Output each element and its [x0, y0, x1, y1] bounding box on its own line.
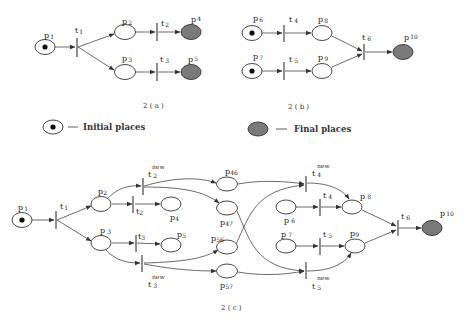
- label-p2: p2: [122, 17, 132, 26]
- arc-t3-p5: [137, 243, 160, 244]
- label-p8: p8: [318, 15, 328, 24]
- transition-t1: t1: [56, 202, 68, 229]
- label-t3-new: t3: [148, 280, 157, 289]
- label-p5: p5: [188, 55, 198, 64]
- token-icon: [249, 30, 254, 35]
- transition-t4: t4: [320, 191, 332, 216]
- label-p57: p57: [220, 281, 233, 290]
- label-t2-new: t2: [148, 170, 157, 179]
- place-p3: p3: [91, 226, 111, 251]
- transition-t5: t5: [284, 55, 298, 80]
- label-t3: t3: [160, 55, 169, 64]
- label-p4: p4: [191, 15, 201, 24]
- arc-t1-p3: [78, 47, 114, 70]
- place-p1: p1: [35, 31, 55, 55]
- label-p1: p1: [44, 31, 54, 40]
- transition-t2-new: new t2: [143, 163, 165, 195]
- label-p2: p2: [98, 187, 107, 196]
- transition-t4: t4: [284, 15, 298, 42]
- label-p47: p47: [220, 218, 233, 227]
- arc-t2new-p47: [144, 187, 219, 203]
- label-p1: p1: [18, 203, 28, 212]
- label-t4: t4: [323, 191, 332, 200]
- place-p2: p2: [115, 17, 136, 40]
- place-p9: p9: [312, 53, 332, 79]
- label-p3: p3: [122, 54, 132, 63]
- legend-initial-place-icon: [43, 120, 63, 134]
- label-p5: p5: [177, 230, 186, 239]
- place-p6: p6: [276, 200, 296, 225]
- label-p6: p6: [253, 14, 263, 23]
- label-t5: t5: [323, 230, 332, 239]
- place-p1: p1: [12, 203, 32, 228]
- arc-p8-t6: [362, 210, 396, 226]
- legend-final-place-icon: [248, 122, 268, 136]
- place-p5: p5: [181, 55, 201, 80]
- label-t2: t2: [161, 19, 169, 28]
- token-icon: [249, 68, 254, 73]
- token-icon: [19, 217, 24, 222]
- place-p5: p5: [161, 230, 186, 252]
- place-p10: p10: [422, 209, 454, 236]
- transition-t1: t1: [75, 26, 83, 57]
- arc-p56-t4new: [236, 185, 304, 244]
- transition-t6: t6: [398, 212, 410, 236]
- legend-initial-label: Initial places: [83, 122, 145, 132]
- arc-p8-t6: [332, 36, 362, 51]
- label-p7: p7: [253, 52, 263, 61]
- token-icon: [42, 44, 47, 49]
- label-t5-new: t5: [312, 282, 321, 291]
- transition-t3: t3: [157, 55, 169, 81]
- place-p8: p8: [312, 15, 332, 41]
- arc-p2-t2new: [108, 186, 141, 198]
- place-p47: p47: [217, 201, 238, 227]
- arc-p46-t4new: [238, 181, 304, 184]
- transition-t2: t2: [157, 19, 169, 41]
- label-t5-new-sup: new: [317, 274, 330, 281]
- arc-t3new-p56: [144, 250, 218, 263]
- arc-p57-t5new: [238, 271, 304, 275]
- place-p4: p4: [181, 15, 201, 40]
- arc-t5new-p9: [307, 253, 351, 271]
- transition-t5-new: new t5: [306, 262, 330, 291]
- petri-net-figure: p1 p2 p3 p4 p5 t1 t2 t3 2: [0, 0, 465, 327]
- caption-c: 2 ( c ): [221, 304, 242, 312]
- label-p9: p9: [318, 53, 328, 62]
- subfigure-b: p6 p7 p8 p9 p10 t4 t5 t6: [242, 14, 418, 111]
- label-p4: p4: [170, 213, 179, 222]
- label-p9: p9: [350, 229, 359, 238]
- label-p8: p8: [360, 192, 371, 201]
- label-t2: t2: [136, 207, 143, 216]
- label-t1: t1: [60, 202, 68, 211]
- label-t6: t6: [401, 212, 410, 221]
- place-p56: p56: [211, 234, 238, 254]
- label-p7: p7: [281, 230, 292, 239]
- label-p6: p6: [284, 216, 295, 225]
- transition-t4-new: new t4: [306, 162, 330, 192]
- place-p2: p2: [91, 187, 111, 212]
- arc-t3new-p57: [144, 264, 216, 271]
- label-p56: p56: [211, 234, 224, 243]
- label-t1: t1: [75, 26, 83, 35]
- place-p6: p6: [242, 14, 263, 41]
- arc-p9-t6: [365, 230, 396, 243]
- label-p3: p3: [100, 226, 111, 235]
- transition-t5: t5: [320, 230, 332, 255]
- transition-t3-new: new t3: [142, 255, 165, 289]
- label-t5: t5: [289, 55, 298, 64]
- place-p4: p4: [161, 197, 181, 222]
- place-p7: p7: [242, 52, 263, 79]
- subfigure-c: p1 p2 p3 p4 p5 p46 p47 p56: [12, 162, 454, 312]
- arc-t1-p3: [57, 220, 91, 241]
- transition-t3: t3: [136, 232, 145, 252]
- label-t4-new: t4: [312, 169, 321, 178]
- transition-t6: t6: [362, 33, 371, 60]
- place-p46: p46: [217, 167, 238, 191]
- arc-p9-t6: [332, 54, 362, 67]
- subfigure-a: p1 p2 p3 p4 p5 t1 t2 t3 2: [35, 15, 201, 110]
- place-p57: p57: [217, 264, 238, 290]
- place-p9: p9: [345, 229, 365, 253]
- arc-t1-p2: [78, 34, 114, 47]
- label-p10: p10: [440, 209, 454, 218]
- label-t3: t3: [138, 232, 145, 241]
